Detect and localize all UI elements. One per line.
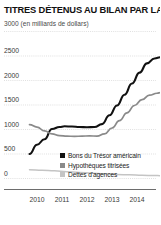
y-axis-tick-label: 1500 <box>4 96 19 103</box>
y-axis-tick-label: 0 <box>4 170 8 177</box>
legend-swatch-icon <box>60 153 65 158</box>
chart-legend: Bons du Trésor américainHypothèques titr… <box>60 151 158 180</box>
x-axis-tick-label: 2014 <box>126 196 148 203</box>
legend-swatch-icon <box>60 163 65 168</box>
legend-item: Bons du Trésor américain <box>60 151 158 160</box>
x-axis-tick-label: 2011 <box>51 196 73 203</box>
legend-item: Hypothèques titrisées <box>60 161 158 170</box>
legend-item: Dettes d'agences <box>60 170 158 179</box>
series-line <box>30 57 161 154</box>
legend-swatch-icon <box>60 172 65 177</box>
y-axis-tick-label: 500 <box>4 145 15 152</box>
x-axis-tick-label: 2010 <box>26 196 48 203</box>
chart-figure: TITRES DÉTENUS AU BILAN PAR LA FED 3000 … <box>0 0 160 225</box>
legend-label: Dettes d'agences <box>68 171 117 178</box>
legend-label: Hypothèques titrisées <box>68 162 129 169</box>
x-axis-tick-label: 2012 <box>76 196 98 203</box>
x-axis-tick-label: 2013 <box>101 196 123 203</box>
plot-area <box>0 0 160 225</box>
y-axis-tick-label: 2500 <box>4 47 19 54</box>
legend-label: Bons du Trésor américain <box>68 152 141 159</box>
y-axis-tick-label: 1000 <box>4 121 19 128</box>
y-axis-tick-label: 2000 <box>4 72 19 79</box>
